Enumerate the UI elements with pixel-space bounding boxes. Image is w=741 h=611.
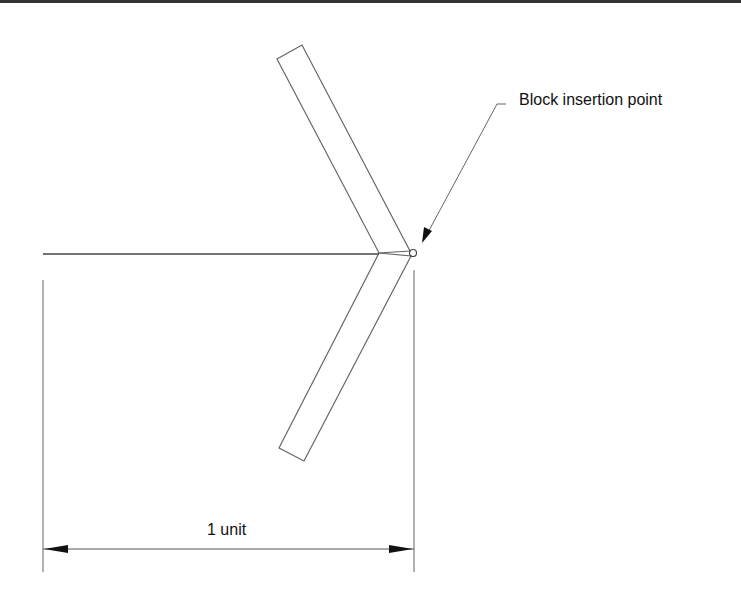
chevron-lower-bar [279,253,411,461]
callout-leader [422,104,506,243]
dimension-arrow-left-icon [44,545,68,553]
chevron-upper-bar [277,45,410,253]
callout-label: Block insertion point [519,91,662,109]
leader-arrowhead-icon [422,227,432,243]
dimension-label: 1 unit [207,521,246,539]
insertion-point-circle [410,250,417,257]
dimension-arrow-right-icon [389,545,413,553]
